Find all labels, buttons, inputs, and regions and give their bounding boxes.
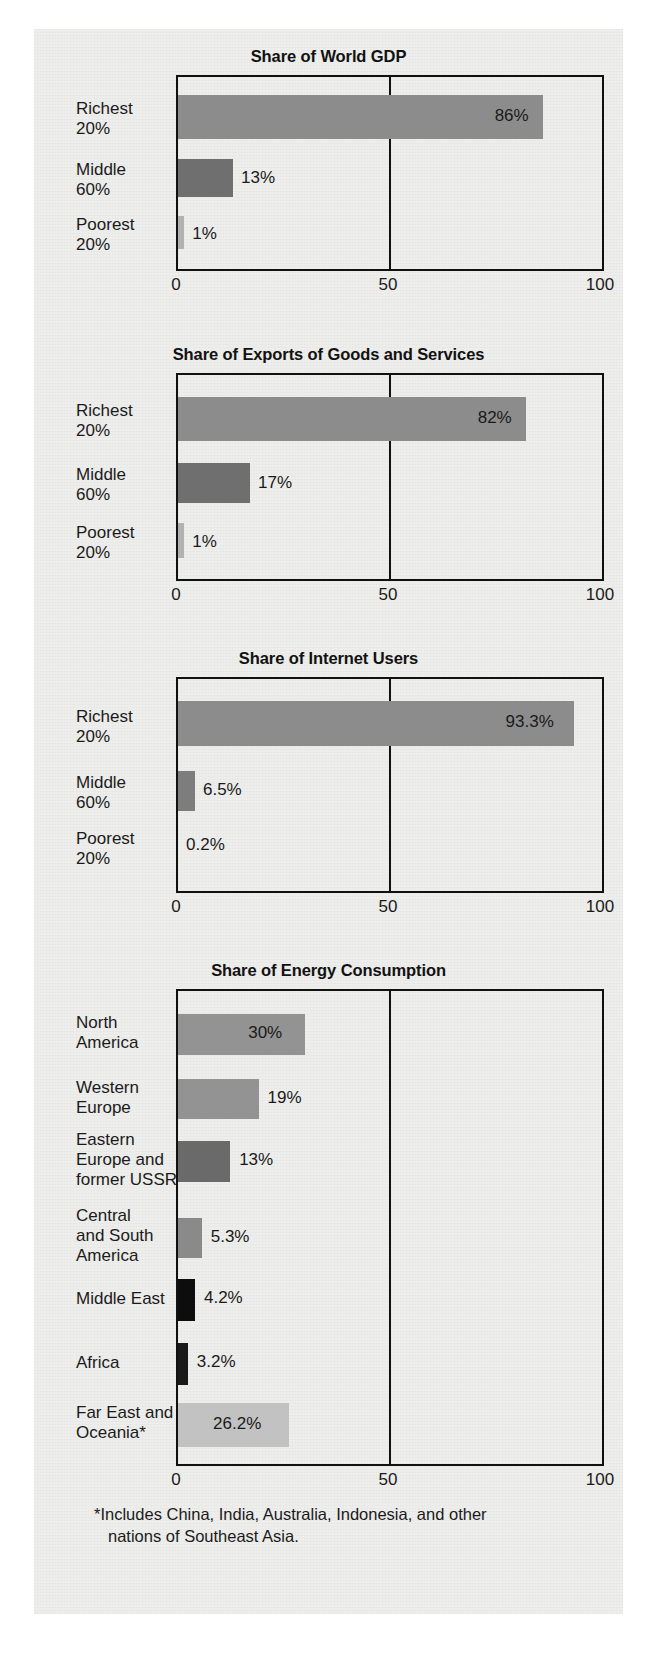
x-tick: 100	[586, 1470, 614, 1490]
x-axis: 0 50 100	[176, 1470, 600, 1492]
x-tick: 100	[586, 897, 614, 917]
plot-area: 86% 13% 1%	[176, 75, 604, 271]
chart-title: Share of World GDP	[34, 47, 623, 66]
category-label-richest: Richest 20%	[76, 707, 133, 747]
x-axis: 0 50 100	[176, 585, 600, 607]
bar-poorest-20	[178, 523, 184, 558]
x-tick: 50	[379, 897, 398, 917]
category-label-poorest: Poorest 20%	[76, 829, 135, 869]
x-tick: 0	[171, 585, 180, 605]
bar-middle-60	[178, 159, 233, 197]
category-label-middle-east: Middle East	[76, 1289, 165, 1309]
bar-western-europe	[178, 1079, 259, 1119]
plot-area: 82% 17% 1%	[176, 373, 604, 581]
bar-value: 26.2%	[213, 1414, 261, 1434]
category-label-richest: Richest 20%	[76, 99, 133, 139]
bar-value: 13%	[241, 168, 275, 188]
x-tick: 0	[171, 897, 180, 917]
x-tick: 50	[379, 275, 398, 295]
x-axis: 0 50 100	[176, 897, 600, 919]
x-tick: 0	[171, 275, 180, 295]
category-label-north-america: North America	[76, 1013, 138, 1053]
category-label-africa: Africa	[76, 1353, 119, 1373]
category-label-poorest: Poorest 20%	[76, 215, 135, 255]
bar-value: 86%	[495, 106, 529, 126]
category-label-eastern-europe-ussr: Eastern Europe and former USSR	[76, 1130, 177, 1190]
x-tick: 50	[379, 585, 398, 605]
bar-richest-20	[178, 397, 526, 441]
bar-value: 3.2%	[197, 1352, 236, 1372]
bar-value: 6.5%	[203, 780, 242, 800]
chart-title: Share of Energy Consumption	[34, 961, 623, 980]
x-tick: 0	[171, 1470, 180, 1490]
scanned-page: Share of World GDP 86% 13% 1% Richest 20…	[34, 29, 623, 1614]
x-tick: 100	[586, 585, 614, 605]
x-axis: 0 50 100	[176, 275, 600, 297]
bar-poorest-20	[178, 216, 184, 249]
bar-value: 82%	[478, 408, 512, 428]
bar-eastern-europe-ussr	[178, 1141, 230, 1182]
chart-title: Share of Internet Users	[34, 649, 623, 668]
midline-50	[389, 989, 392, 1466]
bar-middle-60	[178, 771, 195, 811]
bar-richest-20	[178, 95, 543, 139]
bar-value: 13%	[239, 1150, 273, 1170]
x-tick: 50	[379, 1470, 398, 1490]
bar-middle-60	[178, 463, 250, 503]
bar-value: 1%	[192, 224, 217, 244]
footnote-line-2: nations of Southeast Asia.	[94, 1525, 599, 1547]
category-label-middle: Middle 60%	[76, 160, 126, 200]
bar-value: 4.2%	[204, 1288, 243, 1308]
bar-value: 0.2%	[186, 835, 225, 855]
category-label-western-europe: Western Europe	[76, 1078, 139, 1118]
category-label-poorest: Poorest 20%	[76, 523, 135, 563]
bar-africa	[178, 1343, 188, 1385]
category-label-middle: Middle 60%	[76, 465, 126, 505]
bar-north-america	[178, 1014, 305, 1055]
plot-area: 30% 19% 13% 5.3% 4.2% 3.2% 26.2%	[176, 989, 604, 1466]
x-tick: 100	[586, 275, 614, 295]
bar-middle-east	[178, 1279, 195, 1321]
category-label-richest: Richest 20%	[76, 401, 133, 441]
chart-title: Share of Exports of Goods and Services	[34, 345, 623, 364]
bar-value: 30%	[248, 1023, 282, 1043]
footnote: *Includes China, India, Australia, Indon…	[94, 1503, 599, 1547]
category-label-central-south-america: Central and South America	[76, 1206, 154, 1266]
bar-value: 93.3%	[506, 712, 554, 732]
bar-central-south-america	[178, 1218, 202, 1258]
footnote-line-1: *Includes China, India, Australia, Indon…	[94, 1505, 487, 1523]
bar-value: 19%	[268, 1088, 302, 1108]
category-label-far-east-oceania: Far East and Oceania*	[76, 1403, 173, 1443]
bar-value: 17%	[258, 473, 292, 493]
category-label-middle: Middle 60%	[76, 773, 126, 813]
plot-area: 93.3% 6.5% 0.2%	[176, 677, 604, 893]
bar-value: 1%	[192, 532, 217, 552]
bar-value: 5.3%	[211, 1227, 250, 1247]
